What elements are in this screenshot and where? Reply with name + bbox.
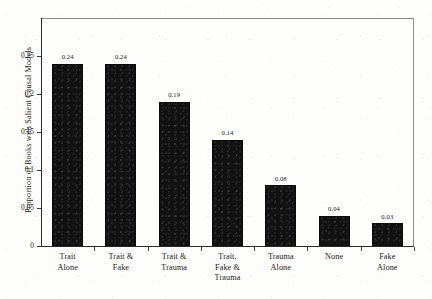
x-axis-line [41, 246, 414, 247]
y-tick: 0.25 [0, 51, 41, 61]
x-tick-mark [361, 247, 362, 251]
y-tick-mark [37, 170, 41, 171]
x-category-label: FakeAlone [355, 252, 419, 273]
y-tick: 0.2 [0, 89, 41, 99]
x-category-label-line: Alone [249, 263, 313, 274]
bar [319, 216, 350, 246]
bar-value-label: 0.04 [314, 205, 354, 213]
x-tick-mark [94, 247, 95, 251]
bar-slot: 0.24 [100, 18, 142, 246]
x-tick-mark [254, 247, 255, 251]
y-tick: 0.15 [0, 127, 41, 137]
bar [212, 140, 243, 246]
bar-slot: 0.03 [366, 18, 408, 246]
bar-slot: 0.04 [313, 18, 355, 246]
y-tick: 0 [0, 241, 41, 251]
x-tick-mark [307, 247, 308, 251]
bar-slot: 0.24 [47, 18, 89, 246]
bar [372, 223, 403, 246]
y-tick-mark [37, 132, 41, 133]
bar [105, 64, 136, 246]
y-tick: 0.05 [0, 203, 41, 213]
x-tick-mark [414, 247, 415, 251]
bar [159, 102, 190, 246]
bar-slot: 0.19 [153, 18, 195, 246]
bar-value-label: 0.08 [261, 175, 301, 183]
bar-value-label: 0.19 [154, 91, 194, 99]
y-tick-label: 0.25 [21, 51, 34, 61]
bar-value-label: 0.24 [48, 53, 88, 61]
x-tick-mark [201, 247, 202, 251]
x-tick-mark [148, 247, 149, 251]
bar-slot: 0.08 [260, 18, 302, 246]
y-tick-mark [37, 246, 41, 247]
bar [265, 185, 296, 246]
bar-chart-figure: Proportion of Books with Salient Causal … [0, 0, 432, 299]
y-tick-mark [37, 56, 41, 57]
x-category-label-line: Fake [355, 252, 419, 263]
bar-value-label: 0.03 [367, 213, 407, 221]
y-tick-label: 0 [30, 241, 34, 251]
y-tick-label: 0.2 [25, 89, 34, 99]
x-category-label-line: Trauma [196, 273, 260, 284]
bar-value-label: 0.14 [208, 129, 248, 137]
bar-value-label: 0.24 [101, 53, 141, 61]
x-category-label-line: Alone [355, 263, 419, 274]
bar [52, 64, 83, 246]
y-tick-label: 0.05 [21, 203, 34, 213]
y-tick-label: 0.1 [25, 165, 34, 175]
y-tick-mark [37, 94, 41, 95]
y-tick-mark [37, 208, 41, 209]
y-axis-line [41, 18, 42, 247]
y-tick-label: 0.15 [21, 127, 34, 137]
y-tick: 0.1 [0, 165, 41, 175]
bar-slot: 0.14 [207, 18, 249, 246]
